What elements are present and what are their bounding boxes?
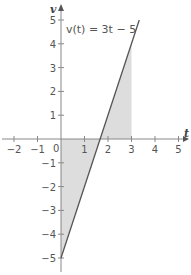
x-tick-label: 1 (81, 144, 87, 155)
chart: −2−11234554321−1−2−3−4−5 v t 0 v(t) = 3t… (0, 0, 191, 275)
y-tick-label: −5 (41, 253, 56, 264)
x-axis-label: t (184, 127, 189, 140)
x-tick-label: 5 (175, 144, 181, 155)
x-tick-label: −2 (7, 144, 22, 155)
y-axis-label: v (50, 3, 57, 16)
y-tick-label: 4 (50, 39, 56, 50)
y-tick-label: −4 (41, 229, 56, 240)
equation-label: v(t) = 3t − 5 (66, 23, 136, 36)
y-tick-label: −2 (41, 182, 56, 193)
x-tick-label: 3 (128, 144, 134, 155)
y-tick-label: −3 (41, 205, 56, 216)
origin-label: 0 (53, 143, 59, 154)
x-tick-label: 2 (105, 144, 111, 155)
y-tick-label: 1 (50, 110, 56, 121)
y-tick-label: 2 (50, 86, 56, 97)
y-tick-label: 5 (50, 15, 56, 26)
x-tick-label: 4 (152, 144, 158, 155)
y-axis-arrow (58, 4, 64, 11)
x-tick-label: −1 (30, 144, 45, 155)
y-tick-label: −1 (41, 158, 56, 169)
y-tick-label: 3 (50, 63, 56, 74)
